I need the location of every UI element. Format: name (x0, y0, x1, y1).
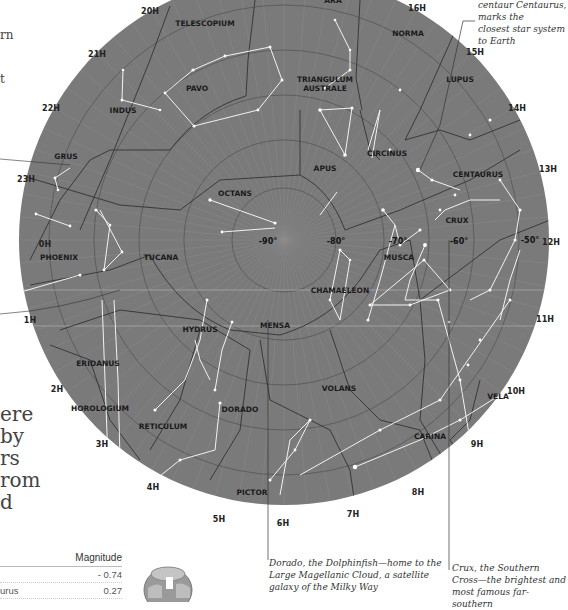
star (54, 177, 57, 180)
constellation-label: MUSCA (384, 253, 414, 262)
star (121, 251, 124, 254)
hour-label: 15H (466, 48, 484, 57)
centaurus-annotation: centaur Centaurus, marks the closest sta… (478, 0, 568, 47)
star (416, 168, 420, 172)
constellation-label: CARINA (414, 432, 446, 441)
star (509, 299, 512, 302)
hour-label: 7H (347, 510, 359, 519)
star (378, 428, 381, 431)
star (489, 289, 492, 292)
hour-label: 0H (39, 240, 51, 249)
declination-label: -80° (327, 237, 345, 246)
hour-label: 11H (536, 315, 554, 324)
star (79, 274, 82, 277)
star (459, 419, 462, 422)
hour-label: 10H (507, 387, 525, 396)
star (192, 124, 195, 127)
star (281, 79, 284, 82)
star (518, 208, 521, 211)
constellation-label: GRUS (54, 152, 77, 161)
star (109, 224, 112, 227)
star (94, 208, 97, 211)
hour-label: 13H (539, 165, 557, 174)
left-text-fragment: d (0, 490, 13, 514)
constellation-label: VOLANS (322, 384, 356, 393)
star (231, 321, 234, 324)
star (454, 194, 457, 197)
star (489, 119, 492, 122)
hour-label: 16H (408, 4, 426, 13)
constellation-label: CIRCINUS (367, 149, 407, 158)
annotation-line: closest star system to Earth (478, 23, 568, 47)
constellation-label: NORMA (392, 29, 424, 38)
hour-label: 5H (213, 515, 225, 524)
constellation-label: CHAMAELEON (311, 286, 370, 295)
left-text-fragment: by (0, 424, 24, 448)
constellation-label: INDUS (110, 106, 137, 115)
star (179, 459, 182, 462)
constellation-label: HYDRUS (182, 325, 217, 334)
constellation-label: DORADO (222, 405, 259, 414)
constellation-label: TRIANGULUMAUSTRALE (297, 75, 353, 93)
star (269, 479, 272, 482)
constellation-label: APUS (314, 164, 337, 173)
star (191, 68, 194, 71)
star (367, 319, 370, 322)
star (269, 46, 272, 49)
star (514, 239, 517, 242)
star (467, 364, 470, 367)
star (122, 69, 125, 72)
constellation-label: CENTAURUS (453, 170, 503, 179)
crux-annotation: Crux, the Southern Cross—the brightest a… (452, 562, 567, 610)
hour-label: 9H (471, 440, 483, 449)
constellation-label: OCTANS (218, 189, 252, 198)
hour-label: 1H (24, 316, 36, 325)
annotation-line: centaur Centaurus, marks the (478, 0, 568, 23)
star (399, 89, 402, 92)
star (334, 19, 337, 22)
hour-label: 22H (42, 104, 60, 113)
hour-label: 3H (96, 440, 108, 449)
star (159, 109, 162, 112)
constellation-label: VELA (487, 392, 509, 401)
hour-label: 21H (88, 50, 106, 59)
declination-label: -70° (389, 237, 407, 246)
star (221, 231, 224, 234)
constellation-label: CRUX (445, 216, 468, 225)
star (103, 269, 106, 272)
constellation-label: ERIDANUS (76, 359, 120, 368)
left-text-fragment: rn (0, 28, 13, 42)
star (349, 69, 352, 72)
hour-label: 20H (141, 7, 159, 16)
hour-label: 14H (508, 104, 526, 113)
star (206, 299, 209, 302)
star (369, 304, 372, 307)
star (349, 259, 352, 262)
star (318, 108, 322, 112)
constellation-label: MENSA (260, 321, 290, 330)
star (214, 389, 217, 392)
table-row: urus 0.27 (0, 583, 122, 599)
declination-label: -50° (521, 236, 539, 245)
annotation-line: most famous far-southern (452, 586, 567, 610)
annotation-line: Crux, the Southern (452, 562, 567, 574)
star (438, 398, 441, 401)
star (423, 243, 427, 247)
constellation-label: PICTOR (236, 488, 267, 497)
left-text-fragment: rom (0, 468, 41, 492)
star (430, 178, 433, 181)
star (351, 107, 354, 110)
hour-label: 12H (542, 238, 560, 247)
star (329, 299, 332, 302)
constellation-label: TELESCOPIUM (175, 19, 234, 28)
constellation-label: TUCANA (144, 253, 179, 262)
star (294, 449, 297, 452)
hour-label: 6H (277, 519, 289, 528)
star (154, 479, 157, 482)
star (273, 221, 276, 224)
star (423, 259, 426, 262)
left-text-fragment: t (0, 72, 5, 86)
annotation-line: galaxy of the Milky Way (269, 581, 469, 593)
star (499, 179, 502, 182)
